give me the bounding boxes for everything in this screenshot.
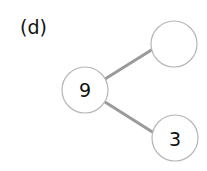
node-part-bottom-value: 3 [169,128,181,150]
node-whole-value: 9 [79,79,91,101]
node-part-bottom: 3 [152,115,198,161]
edge-whole-to-bottom [105,102,154,133]
edge-whole-to-top [105,49,153,79]
number-bond-diagram: 9 3 [0,0,207,171]
node-part-top-circle[interactable] [151,21,197,67]
node-part-top[interactable] [151,21,197,67]
node-whole: 9 [62,67,108,113]
